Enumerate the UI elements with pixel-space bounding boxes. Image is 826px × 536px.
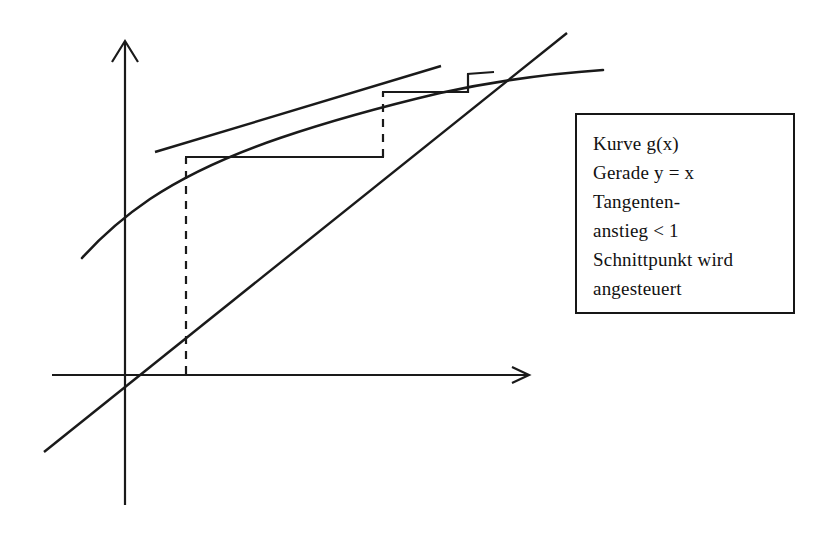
legend-box: Kurve g(x) Gerade y = x Tangenten- ansti… [575, 113, 795, 314]
legend-line-tangent-2: anstieg < 1 [593, 216, 793, 245]
legend-line-tangent-1: Tangenten- [593, 187, 793, 216]
legend-line-fixedpoint-1: Schnittpunkt wird [593, 245, 793, 274]
legend-line-curve: Kurve g(x) [593, 129, 793, 158]
tangent-line [155, 66, 441, 152]
legend-line-fixedpoint-2: angesteuert [593, 274, 793, 303]
cobweb-horizontal-3 [467, 72, 494, 74]
curve-g-of-x [82, 70, 603, 258]
legend-line-identity: Gerade y = x [593, 158, 793, 187]
x-axis [52, 367, 529, 383]
figure-canvas: Kurve g(x) Gerade y = x Tangenten- ansti… [0, 0, 826, 536]
cobweb-path [185, 72, 494, 374]
y-axis [112, 41, 138, 505]
identity-line-y-equals-x [44, 33, 567, 452]
